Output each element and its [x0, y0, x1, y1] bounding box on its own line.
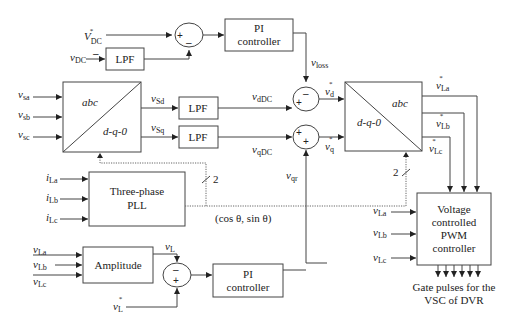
- iLb-input: iLb: [46, 191, 88, 205]
- svg-text:–: –: [93, 48, 99, 59]
- svg-text:vLc: vLc: [33, 275, 47, 289]
- svg-text:vq*: vq*: [325, 135, 334, 154]
- lpf-q-label: LPF: [189, 131, 208, 143]
- vd-ref-label: vd*: [325, 80, 334, 99]
- svg-text:iLc: iLc: [46, 211, 58, 225]
- lpf-dc-to-sum-wire: [144, 50, 189, 59]
- vLc-ref-label: vLc*: [429, 137, 443, 156]
- bus-width-1: 2: [213, 173, 219, 185]
- sum-q-plus-1: +: [296, 127, 302, 138]
- pi-bottom-label-2: controller: [227, 281, 270, 293]
- dq0-abc-right-top-label: abc: [392, 97, 408, 109]
- vL-label: vL: [165, 240, 175, 254]
- svg-text:vsc: vsc: [18, 128, 30, 142]
- lpf-dc-label: LPF: [116, 53, 135, 65]
- pi-top-label-1: PI: [254, 22, 264, 34]
- pll-to-dq0-arrowhead: [403, 152, 409, 157]
- pi-top-label-2: controller: [238, 35, 281, 47]
- iLa-input: iLa: [46, 171, 88, 185]
- vloss-label: vloss: [311, 56, 328, 70]
- sum-dc-minus: –: [186, 37, 192, 48]
- sum-amp-plus: +: [173, 275, 179, 286]
- vLc-pwm-input: vLc: [373, 251, 416, 265]
- svg-text:vLb: vLb: [33, 258, 47, 272]
- svg-text:iLa: iLa: [46, 171, 58, 185]
- amplitude-label: Amplitude: [94, 259, 141, 271]
- sum-amp-minus: –: [173, 264, 179, 275]
- vdc-ref-label: VDC*: [84, 27, 102, 46]
- abc-dq0-left-top-label: abc: [82, 96, 98, 108]
- sum-dc-plus: +: [177, 30, 183, 41]
- vLb-pwm-input: vLb: [373, 226, 416, 240]
- vsa-input: vsa: [18, 88, 62, 102]
- vLb-ref-label: vLb*: [436, 112, 450, 131]
- svg-text:vsa: vsa: [18, 88, 30, 102]
- sum-d-plus: +: [296, 97, 302, 108]
- sum-q-plus-2: +: [303, 136, 309, 147]
- pll-label-2: PLL: [127, 199, 147, 211]
- vsb-input: vsb: [18, 108, 62, 122]
- svg-text:VDC*: VDC*: [84, 27, 102, 46]
- vdc-label: vDC –: [70, 48, 99, 65]
- svg-text:vLc: vLc: [373, 251, 387, 265]
- dq0-abc-right-bottom-label: d-q-0: [357, 116, 381, 128]
- gate-pulse-arrows: [438, 265, 478, 277]
- vLb-input: vLb: [33, 258, 82, 272]
- svg-text:vLb: vLb: [373, 226, 387, 240]
- cos-sin-theta-label: (cos θ, sin θ): [215, 212, 272, 225]
- pwm-label-4: controller: [433, 242, 476, 254]
- bus-slash-2: [402, 169, 410, 176]
- vsc-input: vsc: [18, 128, 62, 142]
- vLa-ref-label: vLa*: [436, 74, 450, 93]
- bus-width-2: 2: [393, 166, 399, 178]
- vloss-wire: [293, 33, 306, 82]
- dvr-control-diagram: VDC* vDC – LPF + – PI controller vloss v…: [0, 0, 510, 329]
- vsq-label: vSq: [151, 121, 164, 135]
- pll-label-1: Three-phase: [110, 185, 164, 197]
- vLa-input: vLa: [33, 243, 82, 257]
- vqr-label: vqr: [286, 169, 298, 183]
- svg-text:iLb: iLb: [46, 191, 58, 205]
- lpf-d-label: LPF: [189, 102, 208, 114]
- pi-bottom-label-1: PI: [243, 268, 253, 280]
- vddc-label: vdDC: [252, 90, 272, 104]
- gate-pulses-label-1: Gate pulses for the: [413, 281, 496, 293]
- svg-text:vsb: vsb: [18, 108, 30, 122]
- svg-text:vd*: vd*: [325, 80, 334, 99]
- pwm-label-1: Voltage: [437, 203, 471, 215]
- vLc-input: vLc: [33, 275, 82, 289]
- sum-d-minus: –: [303, 88, 309, 99]
- vL-ref-wire: [126, 288, 177, 307]
- vqdc-label: vqDC: [252, 143, 272, 157]
- vL-ref-label: vL*: [113, 295, 123, 314]
- pwm-label-3: PWM: [441, 229, 468, 241]
- vL-wire: [153, 254, 177, 262]
- svg-text:vDC: vDC: [70, 51, 86, 65]
- gate-pulses-label-2: VSC of DVR: [424, 294, 484, 306]
- vsd-label: vSd: [151, 92, 164, 106]
- iLc-input: iLc: [46, 211, 88, 225]
- pll-to-abc-arrowhead: [97, 153, 103, 158]
- abc-dq0-left-bottom-label: d-q-0: [103, 125, 127, 137]
- vqr-wire: [306, 150, 327, 263]
- vq-ref-label: vq*: [325, 135, 334, 154]
- vLc-ref-wire: [422, 137, 450, 192]
- pwm-label-2: controlled: [432, 216, 477, 228]
